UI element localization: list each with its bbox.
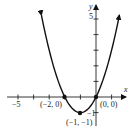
point-label-vertex: (−1, −1) xyxy=(66,118,93,127)
point-vertex xyxy=(78,111,82,115)
parabola-chart: x −5 y 5 −1 (−2, 0) (0, 0) (−1, −1) xyxy=(0,0,133,132)
y-axis-label: y xyxy=(88,2,93,11)
point-origin xyxy=(94,95,98,99)
point-label-origin: (0, 0) xyxy=(100,100,118,109)
point-x-intercept-left xyxy=(62,95,66,99)
x-tick-label-neg5: −5 xyxy=(12,100,21,109)
x-axis-label: x xyxy=(123,85,128,94)
point-label-left: (−2, 0) xyxy=(40,100,62,109)
y-tick-label-neg1: −1 xyxy=(87,109,96,118)
key-points: (−2, 0) (0, 0) (−1, −1) xyxy=(40,95,118,127)
y-tick-label-5: 5 xyxy=(89,12,93,21)
